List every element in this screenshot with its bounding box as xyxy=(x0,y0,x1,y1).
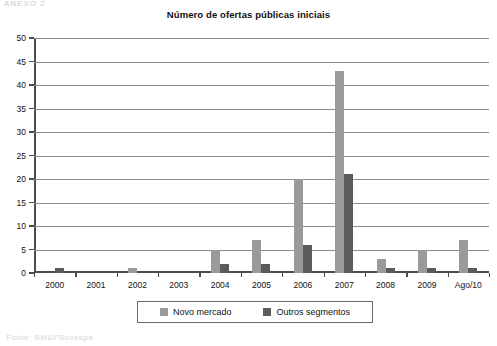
y-axis-label: 15 xyxy=(17,198,26,208)
x-axis-tick xyxy=(282,273,283,277)
x-axis-tick xyxy=(489,273,490,277)
x-axis-label: 2003 xyxy=(169,280,188,290)
y-axis-label: 10 xyxy=(17,221,26,231)
bar xyxy=(418,250,427,274)
x-axis-label: 2008 xyxy=(376,280,395,290)
bar xyxy=(220,264,229,273)
bar xyxy=(468,268,477,273)
x-axis-label: 2007 xyxy=(335,280,354,290)
plot-area: 05101520253035404550 2000200120022003200… xyxy=(34,38,489,273)
chart-page: ANEXO 2 Número de ofertas públicas inici… xyxy=(0,0,497,346)
bar xyxy=(335,71,344,273)
x-axis-tick xyxy=(448,273,449,277)
bar-group xyxy=(324,38,365,273)
bar-group xyxy=(75,38,116,273)
y-axis-label: 20 xyxy=(17,174,26,184)
y-axis-label: 50 xyxy=(17,33,26,43)
y-axis-label: 40 xyxy=(17,80,26,90)
x-axis-label: 2002 xyxy=(128,280,147,290)
x-axis-label: 2001 xyxy=(87,280,106,290)
chart-title: Número de ofertas públicas iniciais xyxy=(0,9,497,20)
bar-group xyxy=(406,38,447,273)
bar xyxy=(294,179,303,273)
y-axis-label: 5 xyxy=(21,245,26,255)
bar xyxy=(386,268,395,273)
bar-series-layer xyxy=(34,38,489,273)
bar xyxy=(303,245,312,273)
bar-group xyxy=(199,38,240,273)
legend-entry-outros-segmentos: Outros segmentos xyxy=(263,307,350,317)
x-axis-tick xyxy=(241,273,242,277)
bar-group xyxy=(34,38,75,273)
x-axis-label: 2009 xyxy=(417,280,436,290)
x-axis-tick xyxy=(158,273,159,277)
bar xyxy=(344,174,353,273)
legend-entry-novo-mercado: Novo mercado xyxy=(160,307,232,317)
y-axis-label: 30 xyxy=(17,127,26,137)
bar-group xyxy=(448,38,489,273)
bar xyxy=(261,264,270,273)
legend-label: Novo mercado xyxy=(173,307,232,317)
bar-group xyxy=(241,38,282,273)
legend-swatch-icon xyxy=(160,308,168,316)
x-axis-tick xyxy=(324,273,325,277)
x-axis-tick xyxy=(199,273,200,277)
bar xyxy=(211,250,220,274)
chart-legend: Novo mercado Outros segmentos xyxy=(137,301,373,323)
x-axis-label: 2006 xyxy=(293,280,312,290)
bar xyxy=(128,268,137,273)
scan-artifact-bottom: Fonte: BM&FBovespa xyxy=(6,333,93,342)
bar-group xyxy=(158,38,199,273)
bar xyxy=(252,240,261,273)
bar xyxy=(427,268,436,273)
bar-group xyxy=(365,38,406,273)
bar-group xyxy=(282,38,323,273)
bar xyxy=(377,259,386,273)
bar xyxy=(55,268,64,273)
x-axis-label: Ago/10 xyxy=(455,280,482,290)
x-axis-label: 2005 xyxy=(252,280,271,290)
x-axis-tick xyxy=(75,273,76,277)
x-axis-label: 2004 xyxy=(211,280,230,290)
y-axis-label: 45 xyxy=(17,57,26,67)
bar xyxy=(459,240,468,273)
y-axis-label: 35 xyxy=(17,104,26,114)
legend-swatch-icon xyxy=(263,308,271,316)
bar-group xyxy=(117,38,158,273)
y-axis-label: 0 xyxy=(21,268,26,278)
scan-artifact-top: ANEXO 2 xyxy=(4,0,46,8)
x-axis-tick xyxy=(365,273,366,277)
x-axis-tick xyxy=(117,273,118,277)
legend-label: Outros segmentos xyxy=(276,307,350,317)
x-axis-tick xyxy=(34,273,35,277)
x-axis-tick xyxy=(406,273,407,277)
x-axis-label: 2000 xyxy=(45,280,64,290)
y-axis-label: 25 xyxy=(17,151,26,161)
